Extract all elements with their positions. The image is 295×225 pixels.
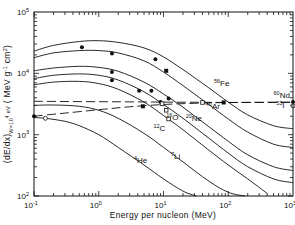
marker-filled-circle	[110, 70, 114, 74]
marker-filled-circle	[137, 89, 141, 93]
isotope-label-40Ar: 40Ar	[206, 101, 220, 111]
marker-filled-circle	[80, 45, 84, 49]
svg-text:(dE/dx)W=104 eV ( MeV g-1 cm2): (dE/dx)W=104 eV ( MeV g-1 cm2)	[2, 45, 14, 163]
isotope-label-56Fe: 56Fe	[214, 78, 230, 88]
isotope-label-53I: 53I	[276, 100, 284, 110]
x-tick-label: 102	[219, 200, 231, 211]
marker-open-square	[160, 102, 164, 106]
annotations-group: 56Fe40Ar20Ne16O12C7Li4He60Nd53I	[134, 78, 290, 165]
marker-filled-circle	[153, 57, 157, 61]
y-tick-labels: 102103104105	[17, 7, 29, 202]
isotope-label-4He: 4He	[134, 155, 148, 165]
marker-filled-square	[141, 104, 145, 108]
x-tick-label: 103	[284, 200, 295, 211]
marker-open-circle	[43, 116, 47, 120]
y-tick-label: 104	[17, 68, 29, 79]
x-tick-label: 10-1	[24, 200, 38, 211]
x-tick-label: 100	[90, 200, 102, 211]
y-tick-label: 105	[17, 7, 29, 18]
x-tick-label: 101	[155, 200, 167, 211]
y-tick-label: 102	[17, 191, 29, 202]
isotope-label-20Ne: 20Ne	[186, 113, 203, 123]
series-group	[34, 41, 293, 196]
isotope-label-7Li: 7Li	[171, 151, 181, 161]
stopping-power-chart: 56Fe40Ar20Ne16O12C7Li4He60Nd53I 10-11001…	[0, 0, 295, 225]
marker-filled-circle	[110, 52, 114, 56]
y-axis-label: (dE/dx)W=104 eV ( MeV g-1 cm2)	[2, 45, 14, 163]
x-axis-label: Energy per nucleon (MeV)	[110, 210, 216, 220]
isotope-label-12C: 12C	[153, 123, 165, 133]
marker-filled-square	[164, 69, 168, 73]
y-tick-label: 103	[17, 129, 29, 140]
marker-filled-circle	[167, 96, 171, 100]
marker-filled-circle	[110, 78, 114, 82]
x-tick-labels: 10-1100101102103	[24, 200, 295, 211]
marker-open-square	[201, 101, 205, 105]
marker-filled-circle	[149, 89, 153, 93]
series-7Li	[34, 105, 245, 196]
marker-filled-square	[222, 100, 226, 104]
